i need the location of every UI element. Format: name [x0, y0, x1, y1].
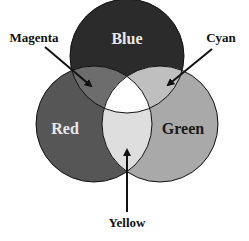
label-red: Red [51, 120, 79, 137]
label-green: Green [162, 120, 204, 137]
label-cyan: Cyan [206, 30, 236, 45]
venn-diagram: Blue Red Green Magenta Cyan Yellow [0, 0, 249, 241]
label-blue: Blue [111, 30, 142, 47]
label-yellow: Yellow [109, 215, 146, 230]
label-magenta: Magenta [9, 30, 59, 45]
